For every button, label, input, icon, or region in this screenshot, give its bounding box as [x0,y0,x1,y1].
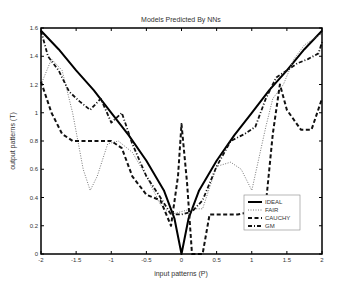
x-tick-label: 1 [250,257,254,263]
x-tick-label: -2 [38,257,44,263]
y-tick-label: 0.6 [30,166,39,172]
x-tick-label: 2 [320,257,324,263]
x-axis-label: input patterns (P) [154,270,208,278]
y-tick-label: 1.6 [30,25,39,31]
x-tick-label: -1 [109,257,115,263]
legend-label: FAIR [265,207,279,213]
series-gm [41,31,322,215]
chart-title: Models Predicted By NNs [141,16,221,24]
x-tick-label: -0.5 [141,257,152,263]
legend: IDEALFAIRCAUCHYGM [244,195,300,230]
y-tick-label: 1.4 [30,53,39,59]
y-tick-label: 0.2 [30,223,39,229]
legend-label: CAUCHY [265,215,290,221]
y-tick-label: 1.2 [30,82,39,88]
y-tick-label: 1 [35,110,39,116]
legend-label: IDEAL [265,199,283,205]
chart: Models Predicted By NNs -2-1.5-1-0.500.5… [0,0,338,287]
x-tick-label: 1.5 [283,257,292,263]
y-axis-label: output patterns (T) [9,112,17,170]
x-tick-label: 0.5 [212,257,221,263]
x-tick-label: 0 [180,257,184,263]
y-tick-label: 0.8 [30,138,39,144]
x-tick-label: -1.5 [71,257,82,263]
legend-label: GM [265,223,275,229]
y-tick-label: 0.4 [30,195,39,201]
